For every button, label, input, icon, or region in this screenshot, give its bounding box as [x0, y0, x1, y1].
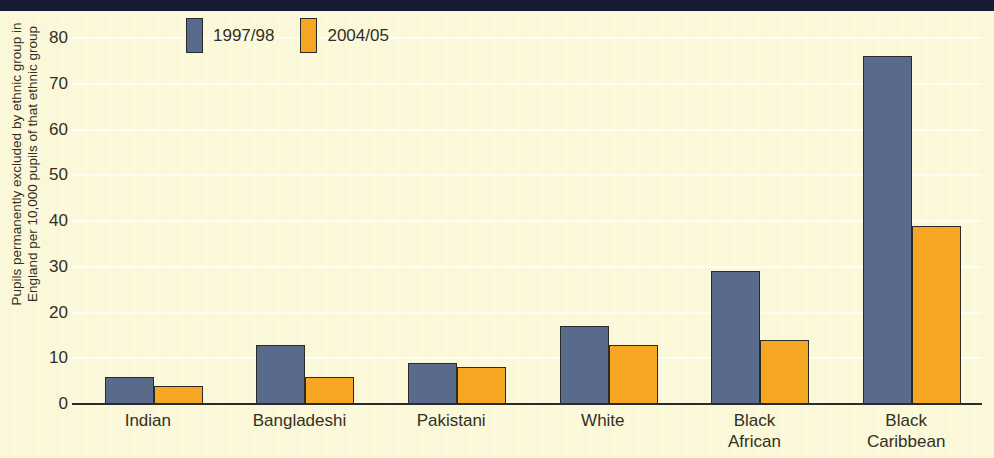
y-axis-tick-label: 10 [34, 349, 68, 366]
y-axis-tick-labels: 80706050403020100 [28, 0, 68, 458]
bar [457, 367, 506, 404]
x-axis-tick-label: Indian [72, 410, 224, 431]
bar-groups [72, 38, 982, 404]
y-axis-title-line-1: Pupils permanently excluded by ethnic gr… [9, 0, 25, 329]
chart-figure: Pupils permanently excluded by ethnic gr… [0, 0, 994, 458]
y-axis-tick-label: 80 [34, 29, 68, 46]
bar [863, 56, 912, 404]
x-axis-tick-label-line: Black [679, 410, 831, 431]
x-axis-tick-label-line: Indian [72, 410, 224, 431]
y-axis-tick-label: 50 [34, 166, 68, 183]
y-axis-tick-label: 20 [34, 304, 68, 321]
bar [560, 326, 609, 404]
x-axis-tick-label: BlackCaribbean [830, 410, 982, 452]
bar-group [375, 38, 527, 404]
x-axis-tick-label-line: Black [830, 410, 982, 431]
legend-label: 2004/05 [327, 27, 388, 44]
bar [408, 363, 457, 404]
bar-group [72, 38, 224, 404]
x-axis-tick-label-line: African [679, 431, 831, 452]
x-axis-tick-label: White [527, 410, 679, 431]
y-axis-tick-label: 30 [34, 258, 68, 275]
bar [912, 226, 961, 404]
legend-item: 1997/98 [186, 18, 274, 53]
legend-swatch-1997-98 [186, 18, 203, 53]
chart-legend: 1997/982004/05 [186, 18, 389, 53]
y-axis-tick-label: 60 [34, 121, 68, 138]
x-axis-tick-label: Bangladeshi [224, 410, 376, 431]
y-axis-tick-label: 70 [34, 75, 68, 92]
bar-group [830, 38, 982, 404]
page-top-band [0, 0, 994, 11]
bar [105, 377, 154, 404]
x-axis-tick-label-line: Bangladeshi [224, 410, 376, 431]
x-axis-tick-label: Pakistani [375, 410, 527, 431]
legend-swatch-2004-05 [300, 18, 317, 53]
bar [711, 271, 760, 404]
bar [760, 340, 809, 404]
x-axis-tick-label-line: Pakistani [375, 410, 527, 431]
bar [154, 386, 203, 404]
bar [256, 345, 305, 404]
x-axis-tick-labels: IndianBangladeshiPakistaniWhiteBlackAfri… [72, 410, 982, 458]
x-axis-tick-label-line: White [527, 410, 679, 431]
x-axis-tick-label: BlackAfrican [679, 410, 831, 452]
x-axis-tick-label-line: Caribbean [830, 431, 982, 452]
y-axis-tick-label: 40 [34, 212, 68, 229]
bar-group [679, 38, 831, 404]
y-axis-tick-label: 0 [34, 395, 68, 412]
bar [609, 345, 658, 404]
legend-label: 1997/98 [213, 27, 274, 44]
bar-group [527, 38, 679, 404]
legend-item: 2004/05 [300, 18, 388, 53]
bar-group [224, 38, 376, 404]
bar [305, 377, 354, 404]
